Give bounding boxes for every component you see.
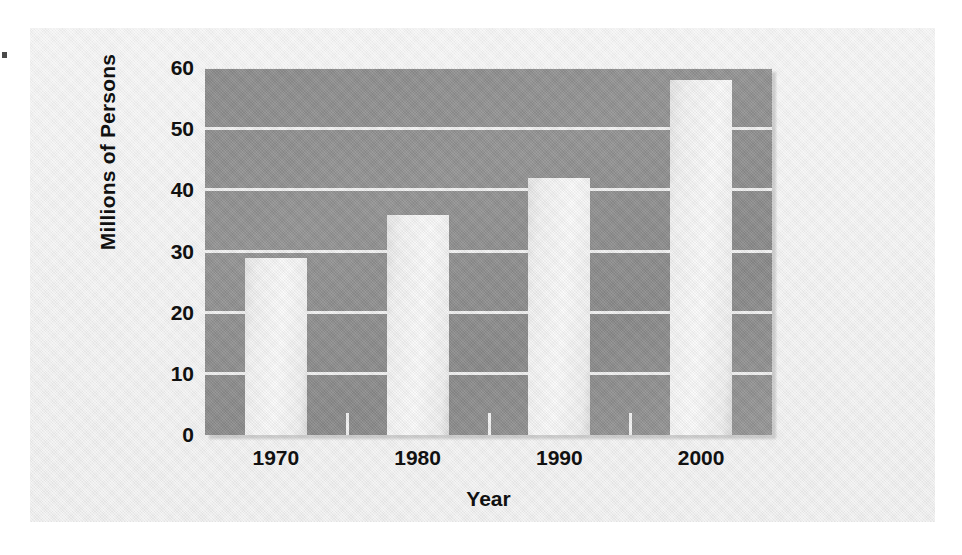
y-tick-label: 10 [134, 363, 194, 384]
x-tick-label: 2000 [641, 446, 761, 470]
bar [670, 80, 732, 435]
x-tick-mark [488, 413, 491, 435]
y-axis-title: Millions of Persons [96, 22, 120, 282]
x-tick-mark [629, 413, 632, 435]
x-tick-label: 1970 [216, 446, 336, 470]
x-tick-mark [346, 413, 349, 435]
y-tick-label: 50 [134, 118, 194, 139]
y-tick-label: 60 [134, 57, 194, 78]
x-axis-title: Year [205, 487, 772, 511]
plot-area [205, 68, 772, 435]
gridline [205, 68, 772, 69]
y-tick-label: 30 [134, 241, 194, 262]
bar [387, 215, 449, 435]
y-tick-label: 0 [134, 424, 194, 445]
scan-artifact-speck [2, 52, 7, 58]
bar [528, 178, 590, 435]
bar [245, 258, 307, 435]
y-tick-label: 40 [134, 179, 194, 200]
x-tick-label: 1980 [358, 446, 478, 470]
bar-chart-figure: 0102030405060 Millions of Persons 197019… [0, 0, 962, 555]
y-tick-label: 20 [134, 302, 194, 323]
x-tick-label: 1990 [499, 446, 619, 470]
y-axis-tick-labels: 0102030405060 [128, 0, 194, 555]
